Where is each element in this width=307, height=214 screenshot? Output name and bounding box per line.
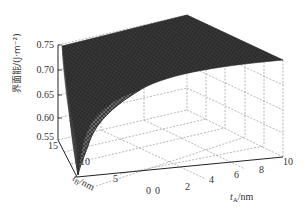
x-tick-labels: 0 2 4 6 8 10: [155, 156, 293, 196]
z-axis-label: 界面能/(J·m⁻²): [10, 33, 23, 93]
surface-mesh: [62, 15, 283, 175]
x-axis-label: tA/nm: [230, 191, 254, 204]
x-tick-4: 4: [209, 174, 214, 185]
z-tick-0.70: 0.70: [37, 64, 55, 75]
y-tick-5: 5: [113, 173, 118, 184]
x-tick-10: 10: [283, 156, 293, 167]
x-tick-0: 0: [155, 185, 160, 196]
x-tick-8: 8: [259, 164, 264, 175]
y-tick-15: 15: [48, 140, 58, 151]
z-tick-0.65: 0.65: [37, 89, 55, 100]
x-tick-2: 2: [185, 181, 190, 192]
x-axis-line: [77, 157, 283, 177]
z-tick-0.75: 0.75: [37, 39, 55, 50]
y-tick-labels: 15 10 5 0: [48, 140, 151, 196]
surface-plot: 0.75 0.70 0.65 0.60 0.55 15 10 5 0 0 2 4…: [0, 0, 307, 214]
z-tick-0.60: 0.60: [37, 112, 55, 123]
y-tick-0: 0: [146, 185, 151, 196]
y-tick-10: 10: [80, 156, 90, 167]
x-tick-6: 6: [234, 169, 239, 180]
z-tick-labels: 0.75 0.70 0.65 0.60 0.55: [37, 39, 55, 142]
